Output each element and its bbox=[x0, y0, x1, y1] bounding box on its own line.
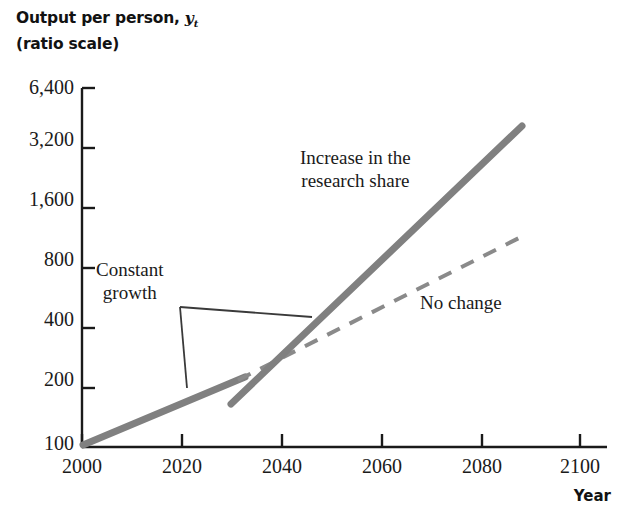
series-increase-research-share-line bbox=[231, 126, 522, 404]
leader-line-constant-growth-horizontal bbox=[180, 307, 312, 317]
series-constant-growth-line bbox=[83, 377, 245, 445]
chart-plot-area bbox=[0, 0, 627, 519]
leader-line-constant-growth-vertical bbox=[180, 307, 187, 388]
chart-figure: Output per person, yt (ratio scale) Year… bbox=[0, 0, 627, 519]
